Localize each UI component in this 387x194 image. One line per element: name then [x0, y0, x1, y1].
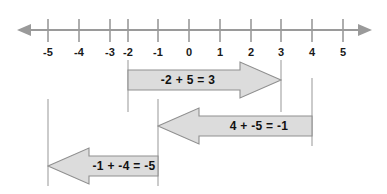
axis-group — [17, 24, 372, 36]
tick-label-pos4: 4 — [309, 46, 316, 58]
jump-equation-2: 4 + -5 = -1 — [230, 119, 289, 133]
axis-left-arrowhead-icon — [17, 24, 31, 36]
tick-label-zero: 0 — [186, 46, 192, 58]
tick-label-pos5: 5 — [340, 46, 346, 58]
axis-right-arrowhead-icon — [358, 24, 372, 36]
number-line-figure: -5 -4 -3 -2 -1 0 1 2 3 4 5 -2 + 5 = 3 4 … — [0, 0, 387, 194]
tick-label-neg4: -4 — [74, 46, 85, 58]
tick-label-neg1: -1 — [153, 46, 163, 58]
jump-arrow-1: -2 + 5 = 3 — [128, 62, 281, 98]
jump-arrow-3: -1 + -4 = -5 — [48, 148, 158, 184]
tick-label-pos3: 3 — [278, 46, 284, 58]
jump-equation-3: -1 + -4 = -5 — [93, 159, 156, 173]
tick-label-group: -5 -4 -3 -2 -1 0 1 2 3 4 5 — [43, 46, 346, 58]
number-line-canvas: -5 -4 -3 -2 -1 0 1 2 3 4 5 -2 + 5 = 3 4 … — [0, 0, 387, 194]
tick-label-pos2: 2 — [248, 46, 254, 58]
tick-label-neg5: -5 — [43, 46, 53, 58]
tick-label-neg3: -3 — [105, 46, 115, 58]
jump-arrow-2: 4 + -5 = -1 — [158, 108, 312, 144]
jump-equation-1: -2 + 5 = 3 — [161, 73, 215, 87]
tick-label-pos1: 1 — [217, 46, 223, 58]
tick-label-neg2: -2 — [123, 46, 133, 58]
